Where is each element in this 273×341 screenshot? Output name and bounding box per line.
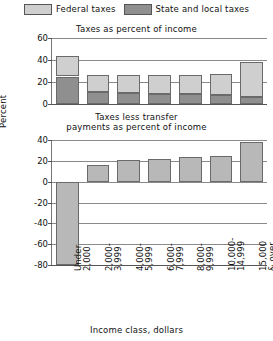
legend-label-federal: Federal taxes: [56, 4, 116, 14]
y-tick-label: -20: [22, 199, 48, 207]
x-tick-label-line: 5,999: [145, 243, 154, 271]
y-tick-label: 40: [22, 56, 48, 64]
y-tick-mark: [48, 244, 52, 245]
x-tick-label-line: 3,999: [114, 243, 123, 271]
y-tick-mark: [48, 203, 52, 204]
bar: [179, 157, 202, 182]
legend-item-state-local-taxes: State and local taxes: [124, 4, 250, 15]
bottom-chart-title: Taxes less transfer payments as percent …: [0, 112, 273, 132]
y-tick-mark: [48, 265, 52, 266]
x-tick-label-line: 2,000: [83, 245, 92, 271]
y-tick-mark: [48, 182, 52, 183]
bar-segment: [179, 75, 202, 94]
y-axis-line: [51, 38, 52, 104]
bar-segment: [117, 93, 140, 104]
x-tick-label: Under2,000: [74, 245, 92, 271]
legend: Federal taxes State and local taxes: [0, 2, 273, 16]
y-tick-label: 0: [22, 178, 48, 186]
legend-swatch-state-icon: [124, 4, 152, 15]
gridline: [52, 203, 267, 204]
y-tick-mark: [48, 82, 52, 83]
bar: [210, 156, 233, 182]
bar: [117, 160, 140, 182]
y-tick-mark: [48, 60, 52, 61]
gridline: [52, 140, 267, 141]
gridline: [52, 60, 267, 61]
bar: [87, 165, 110, 182]
gridline: [52, 182, 267, 183]
bar-segment: [148, 94, 171, 104]
y-tick-label: 20: [22, 157, 48, 165]
bar-segment: [148, 75, 171, 94]
y-tick-mark: [48, 38, 52, 39]
x-tick-label-line: 14,999: [237, 237, 246, 271]
y-tick-label: 0: [22, 100, 48, 108]
x-tick-label-line: 9,999: [206, 243, 215, 271]
x-tick-label-line: & over: [268, 241, 273, 271]
legend-swatch-federal-icon: [24, 4, 52, 15]
bar-segment: [210, 95, 233, 104]
y-tick-mark: [48, 140, 52, 141]
bar-segment: [117, 75, 140, 93]
y-tick-label: 40: [22, 136, 48, 144]
y-axis-title: Percent: [0, 95, 8, 128]
y-tick-mark: [48, 104, 52, 105]
x-axis-title: Income class, dollars: [0, 325, 273, 335]
x-tick-label: 2,000-3,999: [105, 243, 123, 271]
bar-segment: [240, 62, 263, 97]
x-tick-label: 10,000-14,999: [228, 237, 246, 271]
x-tick-label-line: 7,999: [176, 243, 185, 271]
y-tick-label: 60: [22, 34, 48, 42]
y-tick-label: -60: [22, 240, 48, 248]
legend-label-state: State and local taxes: [156, 4, 250, 14]
y-tick-label: -80: [22, 261, 48, 269]
bar-segment: [179, 94, 202, 104]
bar-segment: [240, 97, 263, 104]
bar: [148, 159, 171, 182]
y-tick-label: 20: [22, 78, 48, 86]
bar-segment: [87, 92, 110, 104]
y-tick-label: -40: [22, 219, 48, 227]
bottom-chart-title-line1: Taxes less transfer: [0, 112, 273, 122]
bar-segment: [56, 56, 79, 77]
bar-segment: [56, 77, 79, 105]
gridline: [52, 223, 267, 224]
y-tick-mark: [48, 223, 52, 224]
y-tick-mark: [48, 161, 52, 162]
bar-segment: [87, 75, 110, 92]
bar-segment: [210, 74, 233, 95]
x-tick-label: 4,000-5,999: [136, 243, 154, 271]
figure: Federal taxes State and local taxes Taxe…: [0, 0, 273, 341]
x-tick-label: 15,000& over: [259, 241, 273, 271]
top-chart-plot: [52, 38, 267, 104]
x-tick-label: 6,000-7,999: [167, 243, 185, 271]
x-tick-label: 8,000-9,999: [197, 243, 215, 271]
legend-item-federal-taxes: Federal taxes: [24, 4, 116, 15]
bottom-chart-title-line2: payments as percent of income: [0, 122, 273, 132]
x-axis-line: [52, 104, 267, 105]
gridline: [52, 38, 267, 39]
bar: [240, 142, 263, 182]
